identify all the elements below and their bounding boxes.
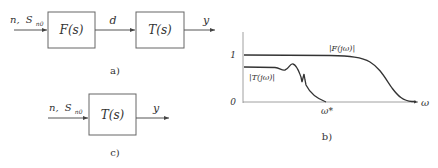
t-magnitude-label: |T(jω)|	[249, 73, 275, 82]
block-f-label: F(s)	[59, 23, 84, 37]
block-t-c-label: T(s)	[101, 108, 125, 122]
f-magnitude-label: |F(jω)|	[329, 44, 355, 53]
block-t-a-label: T(s)	[148, 23, 172, 37]
x-axis-label: ω	[421, 97, 429, 108]
output-label-c: y	[152, 102, 160, 115]
caption-b: b)	[322, 131, 332, 142]
output-label-a: y	[202, 14, 210, 27]
magnitude-chart: 1 0 ω ω* |F(jω)| |T(jω)| b)	[230, 32, 429, 142]
input-label-c: n, S n0	[49, 102, 83, 115]
intermediate-label: d	[109, 14, 116, 27]
t-magnitude-curve	[244, 64, 326, 102]
block-diagram-a: n, S n0 F(s) d T(s) y a)	[10, 12, 215, 76]
y-tick-0: 0	[230, 97, 236, 107]
input-label-a: n, S n0	[10, 14, 44, 27]
omega-star-label: ω*	[321, 106, 333, 116]
block-diagram-c: n, S n0 T(s) y c)	[48, 94, 169, 158]
caption-c: c)	[110, 147, 120, 158]
caption-a: a)	[110, 65, 120, 76]
y-tick-1: 1	[230, 50, 236, 60]
